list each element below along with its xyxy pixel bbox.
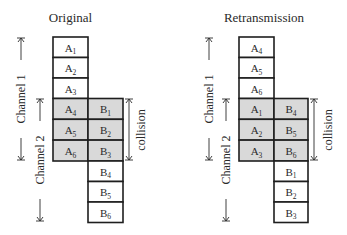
collision-label: collision [321, 109, 335, 150]
retransmission-diagram: Retransmission A4 A5 A6 A1 A2 A3 B4 B5 [202, 10, 335, 223]
channel1-span-arrow: Channel 1 [202, 38, 216, 160]
channel2-label: Channel 2 [219, 136, 233, 185]
channel2-span-arrow: Channel 2 [33, 99, 47, 221]
collision-span-arrow: collision [310, 99, 335, 160]
channel2-label: Channel 2 [33, 136, 47, 185]
channel1-span-arrow: Channel 1 [14, 38, 28, 160]
retransmission-column-b: B4 B5 B6 B1 B2 B3 [274, 99, 308, 223]
retransmission-column-a: A4 A5 A6 A1 A2 A3 [239, 37, 274, 161]
diagram-canvas: Original A1 A2 A3 A4 A5 A6 B1 B2 [0, 0, 347, 235]
retransmission-title: Retransmission [224, 10, 305, 25]
channel1-label: Channel 1 [14, 75, 28, 124]
channel2-span-arrow: Channel 2 [219, 99, 233, 221]
collision-span-arrow: collision [125, 99, 148, 160]
channel1-label: Channel 1 [202, 75, 216, 124]
original-diagram: Original A1 A2 A3 A4 A5 A6 B1 B2 [14, 10, 148, 223]
original-column-b: B1 B2 B3 B4 B5 B6 [88, 99, 123, 223]
collision-label: collision [134, 109, 148, 150]
original-title: Original [49, 10, 93, 25]
original-column-a: A1 A2 A3 A4 A5 A6 [53, 37, 88, 161]
